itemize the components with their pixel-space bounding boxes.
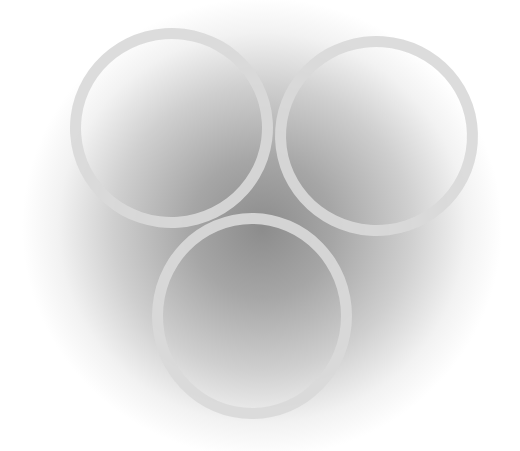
ring-bottom-center [152,213,352,419]
ring-top-left [63,21,279,235]
photo-scene [0,0,520,451]
ring-top-right [268,29,484,243]
